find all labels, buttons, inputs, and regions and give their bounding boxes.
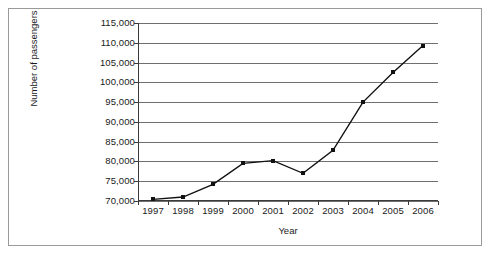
data-point-marker xyxy=(181,195,185,199)
data-point-marker xyxy=(361,100,365,104)
x-tick-mark xyxy=(288,201,289,205)
y-tick-label: 110,000 xyxy=(101,38,135,48)
y-tick-label: 85,000 xyxy=(105,137,135,147)
x-tick-label: 2001 xyxy=(262,206,284,216)
y-tick-label: 105,000 xyxy=(100,58,135,68)
y-tick-label: 100,000 xyxy=(100,77,135,87)
x-tick-label: 1997 xyxy=(142,206,164,216)
data-point-marker xyxy=(421,44,425,48)
passenger-series-line xyxy=(138,23,438,201)
data-point-marker xyxy=(391,70,395,74)
plot-area xyxy=(138,23,438,201)
y-tick-label: 90,000 xyxy=(105,117,135,127)
y-axis-title: Number of passengers xyxy=(28,0,39,119)
data-point-marker xyxy=(271,159,275,163)
x-tick-label: 2002 xyxy=(292,206,314,216)
x-tick-label: 2004 xyxy=(352,206,374,216)
x-tick-mark xyxy=(408,201,409,205)
x-tick-mark xyxy=(138,201,139,205)
y-axis-tick-labels: 70,00075,00080,00085,00090,00095,000100,… xyxy=(69,23,135,201)
x-tick-mark xyxy=(348,201,349,205)
y-tick-label: 115,000 xyxy=(101,18,135,28)
y-tick-label: 75,000 xyxy=(105,176,135,186)
data-point-marker xyxy=(331,148,335,152)
x-tick-label: 2000 xyxy=(232,206,254,216)
chart-frame: Number of passengers 70,00075,00080,0008… xyxy=(8,8,482,246)
x-tick-mark xyxy=(438,201,439,205)
x-tick-label: 2003 xyxy=(322,206,344,216)
x-tick-mark xyxy=(198,201,199,205)
data-point-marker xyxy=(241,161,245,165)
x-tick-mark xyxy=(378,201,379,205)
y-tick-label: 80,000 xyxy=(105,156,135,166)
data-point-marker xyxy=(151,197,155,201)
x-tick-mark xyxy=(318,201,319,205)
x-tick-mark xyxy=(258,201,259,205)
x-tick-mark xyxy=(228,201,229,205)
y-tick-label: 70,000 xyxy=(105,196,135,206)
x-tick-label: 1998 xyxy=(172,206,194,216)
data-point-marker xyxy=(301,171,305,175)
data-point-marker xyxy=(211,182,215,186)
x-axis-title: Year xyxy=(138,225,438,236)
x-tick-label: 1999 xyxy=(202,206,224,216)
x-axis-tick-labels: 1997199819992000200120022003200420052006 xyxy=(138,206,438,220)
x-tick-mark xyxy=(168,201,169,205)
x-tick-label: 2006 xyxy=(412,206,434,216)
x-tick-label: 2005 xyxy=(382,206,404,216)
y-tick-label: 95,000 xyxy=(105,97,135,107)
